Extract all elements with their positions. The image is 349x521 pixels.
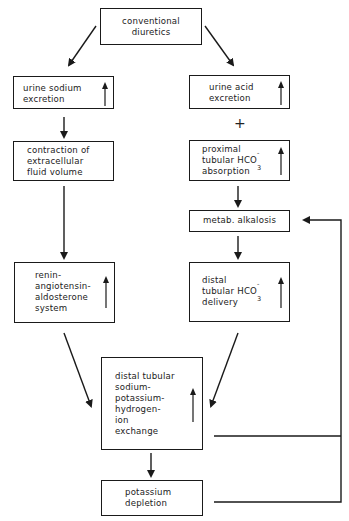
node-label: potassium depletion xyxy=(125,487,171,509)
node-label: distal tubular HCO-3 delivery xyxy=(202,275,261,308)
node-label: distal tubular sodium- potassium- hydrog… xyxy=(115,371,175,437)
node-label: renin- angiotensin- aldosterone system xyxy=(35,270,91,314)
increase-arrow-icon xyxy=(101,276,111,308)
increase-arrow-icon xyxy=(100,82,110,106)
node-metabolic-alkalosis: metab. alkalosis xyxy=(189,210,290,232)
increase-arrow-icon xyxy=(188,388,198,422)
increase-arrow-icon xyxy=(276,277,286,308)
increase-arrow-icon xyxy=(276,81,286,105)
node-conventional-diuretics: conventional diuretics xyxy=(100,8,202,45)
node-label: urine sodium excretion xyxy=(23,83,82,105)
arrow-diuretics-to-acid xyxy=(205,26,233,65)
plus-sign: + xyxy=(234,116,246,130)
increase-arrow-icon xyxy=(276,147,286,175)
node-label: contraction of extracellular fluid volum… xyxy=(27,145,90,178)
node-label: conventional diuretics xyxy=(101,16,201,38)
node-contraction-ecf-volume: contraction of extracellular fluid volum… xyxy=(13,141,114,181)
node-label: proximal tubular HCO-3 absorption xyxy=(202,144,261,177)
node-urine-sodium-excretion: urine sodium excretion xyxy=(13,76,114,109)
node-potassium-depletion: potassium depletion xyxy=(101,480,203,516)
node-urine-acid-excretion: urine acid excretion xyxy=(189,75,290,109)
node-label: urine acid excretion xyxy=(209,82,254,104)
arrow-diuretics-to-sodium xyxy=(69,26,96,65)
node-proximal-hco3-absorption: proximal tubular HCO-3 absorption xyxy=(189,140,290,181)
node-renin-angiotensin-aldosterone: renin- angiotensin- aldosterone system xyxy=(14,262,115,323)
node-distal-na-k-h-exchange: distal tubular sodium- potassium- hydrog… xyxy=(101,357,203,450)
node-distal-hco3-delivery: distal tubular HCO-3 delivery xyxy=(189,262,290,322)
node-label: metab. alkalosis xyxy=(190,215,289,226)
